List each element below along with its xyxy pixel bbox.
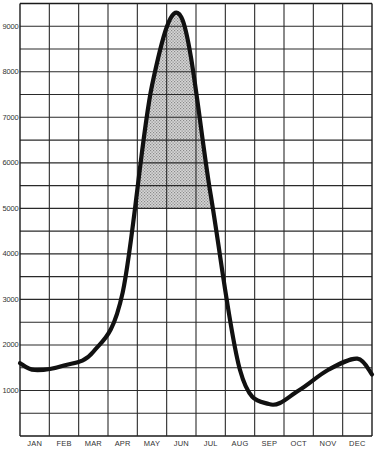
y-tick-label: 1000 [3, 386, 19, 395]
y-tick-label: 7000 [3, 113, 19, 122]
x-tick-label: APR [115, 439, 131, 448]
y-tick-label: 6000 [3, 158, 19, 167]
x-tick-label: MAR [85, 439, 103, 448]
y-tick-label: 5000 [3, 204, 19, 213]
y-tick-label: 2000 [3, 340, 19, 349]
x-tick-label: JUN [174, 439, 189, 448]
x-tick-label: JAN [27, 439, 42, 448]
x-tick-label: DEC [349, 439, 366, 448]
y-tick-label: 9000 [3, 22, 19, 31]
y-tick-label: 4000 [3, 249, 19, 258]
x-tick-label: AUG [232, 439, 249, 448]
y-tick-label: 3000 [3, 295, 19, 304]
x-tick-label: SEP [262, 439, 278, 448]
x-tick-label: MAY [144, 439, 160, 448]
x-tick-label: JUL [204, 439, 218, 448]
x-tick-label: NOV [320, 439, 337, 448]
y-tick-label: 8000 [3, 67, 19, 76]
x-axis-month-labels: JANFEBMARAPRMAYJUNJULAUGSEPOCTNOVDEC [27, 439, 366, 448]
x-tick-label: OCT [290, 439, 307, 448]
y-axis-tick-labels: 100020003000400050006000700080009000 [3, 22, 19, 395]
seasonal-line-chart: 100020003000400050006000700080009000 JAN… [0, 0, 375, 449]
grid [20, 4, 372, 437]
x-tick-label: FEB [56, 439, 71, 448]
